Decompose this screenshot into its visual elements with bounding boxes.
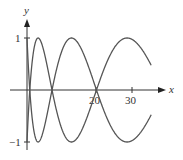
x-axis-label: x [168, 83, 174, 95]
x-axis-arrow-icon [158, 87, 166, 93]
y-tick-label-neg1: −1 [9, 136, 21, 148]
y-axis-label: y [23, 4, 29, 16]
x-tick-label-30: 30 [125, 94, 137, 106]
y-axis-arrow-icon [24, 19, 30, 27]
y-tick-label-1: 1 [15, 32, 21, 44]
plot-area: x y 20 30 1 −1 [0, 0, 183, 160]
